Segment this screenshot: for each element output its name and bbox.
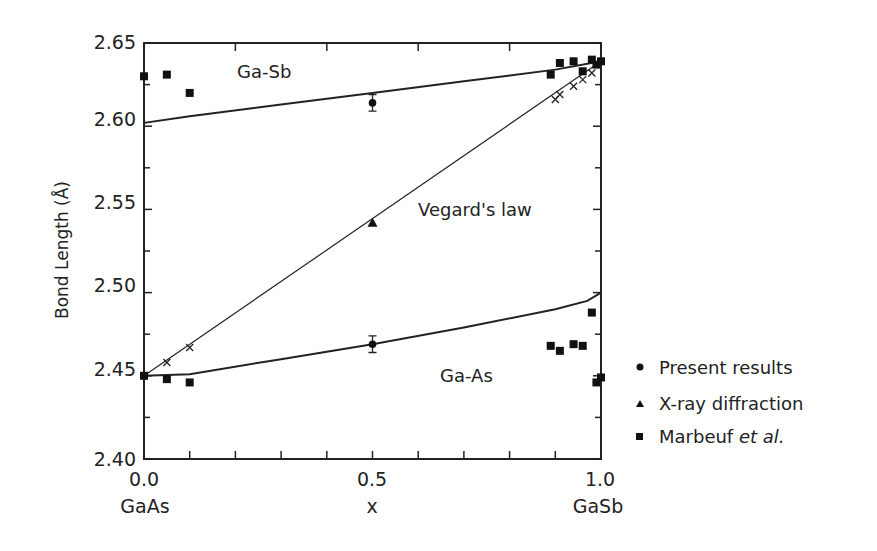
legend-marbeuf: Marbeuf et al. <box>659 426 785 447</box>
x-tick-1.0: 1.0 <box>585 468 615 490</box>
chart: 2.65 2.60 2.55 2.50 2.45 2.40 0.0 0.5 1.… <box>0 0 877 551</box>
cross-marker-icon <box>579 76 586 83</box>
square-marker-icon <box>547 71 555 79</box>
cross-marker-icon <box>588 69 595 76</box>
square-marker-icon <box>579 342 587 350</box>
legend-present: Present results <box>659 357 793 378</box>
square-marker-icon <box>186 378 194 386</box>
y-tick-2.65: 2.65 <box>94 31 136 53</box>
x-tick-labels: 0.0 0.5 1.0 GaAs x GaSb <box>120 468 623 517</box>
legend-marbeuf-italic: et al. <box>739 426 785 447</box>
x-axis-title: x <box>366 495 377 517</box>
square-marker-icon <box>556 347 564 355</box>
y-axis-title: Bond Length (Å) <box>51 181 72 319</box>
x-sublabel-gaas: GaAs <box>120 495 169 517</box>
y-tick-2.60: 2.60 <box>94 108 136 130</box>
legend: Present results X-ray diffraction Marbeu… <box>636 357 803 447</box>
legend-marbeuf-main: Marbeuf <box>659 426 739 447</box>
circle-marker-icon <box>637 364 644 371</box>
square-marker-icon <box>636 433 643 440</box>
square-marker-icon <box>140 72 148 80</box>
y-tick-2.55: 2.55 <box>94 191 136 213</box>
cross-marker-icon <box>556 91 563 98</box>
square-marker-icon <box>163 375 171 383</box>
x-tick-0.0: 0.0 <box>129 468 159 490</box>
annotation-ga-as: Ga-As <box>440 365 493 386</box>
square-marker-icon <box>597 57 605 65</box>
square-marker-icon <box>140 372 148 380</box>
circle-marker-icon <box>369 340 377 348</box>
annotation-vegard: Vegard's law <box>418 199 532 220</box>
cross-marker-icon <box>570 83 577 90</box>
annotation-ga-sb: Ga-Sb <box>237 61 291 82</box>
square-marker-icon <box>556 59 564 67</box>
x-sublabel-gasb: GaSb <box>573 495 624 517</box>
y-tick-2.50: 2.50 <box>94 274 136 296</box>
square-marker-icon <box>163 71 171 79</box>
square-marker-icon <box>547 342 555 350</box>
y-tick-labels: 2.65 2.60 2.55 2.50 2.45 2.40 <box>94 31 136 470</box>
x-tick-0.5: 0.5 <box>357 468 387 490</box>
square-marker-icon <box>597 373 605 381</box>
triangle-marker-icon <box>636 400 644 407</box>
legend-xray: X-ray diffraction <box>659 393 803 414</box>
ga-sb-theory-curve-curve <box>144 61 601 123</box>
square-marker-icon <box>579 67 587 75</box>
square-marker-icon <box>570 340 578 348</box>
data-markers <box>140 56 605 387</box>
square-marker-icon <box>570 57 578 65</box>
y-tick-2.45: 2.45 <box>94 358 136 380</box>
circle-marker-icon <box>369 99 377 107</box>
square-marker-icon <box>588 309 596 317</box>
y-tick-2.40: 2.40 <box>94 448 136 470</box>
triangle-marker-icon <box>368 218 378 227</box>
ga-as-theory-curve-curve <box>144 293 601 376</box>
square-marker-icon <box>186 89 194 97</box>
